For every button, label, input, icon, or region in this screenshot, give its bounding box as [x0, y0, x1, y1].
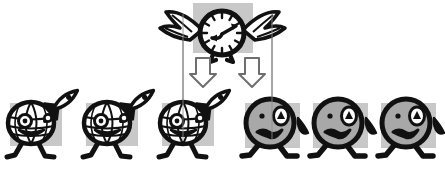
- worried-face-figure-5: [310, 99, 376, 156]
- worried-face-figure-6: [378, 99, 444, 156]
- cartoon-illustration: [0, 0, 445, 174]
- scene-canvas: Time flies: optimistic world-explorers b…: [0, 0, 445, 174]
- worried-face-figure-4: [242, 99, 308, 156]
